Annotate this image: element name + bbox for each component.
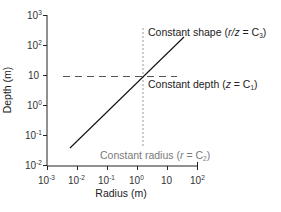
y-tick-label: 103 <box>27 9 42 21</box>
constant-shape-label: Constant shape (r/z = C3) <box>148 26 266 39</box>
x-tick-label: 10-3 <box>38 174 55 186</box>
x-tick-label: 10-2 <box>68 174 85 186</box>
constant-radius-label: Constant radius (r = C2) <box>100 149 210 162</box>
y-tick-label: 10 <box>28 70 40 81</box>
chart: 103 102 10 100 10-1 10-2 10-3 10-2 10-1 … <box>0 0 281 212</box>
y-axis-title: Depth (m) <box>1 67 13 114</box>
y-tick-labels: 103 102 10 100 10-1 10-2 <box>25 9 42 171</box>
y-tick-label: 100 <box>27 99 42 111</box>
x-tick-label: 102 <box>190 174 205 186</box>
y-tick-label: 10-2 <box>25 159 42 171</box>
x-tick-label: 10 <box>161 175 173 186</box>
y-tick-label: 10-1 <box>25 129 42 141</box>
y-tick-label: 102 <box>27 39 42 51</box>
constant-depth-label: Constant depth (z = C1) <box>148 78 258 91</box>
x-axis-title: Radius (m) <box>95 187 146 199</box>
chart-svg: 103 102 10 100 10-1 10-2 10-3 10-2 10-1 … <box>0 0 281 212</box>
x-tick-label: 10-1 <box>98 174 115 186</box>
x-tick-labels: 10-3 10-2 10-1 100 10 102 <box>38 174 205 186</box>
y-ticks <box>43 16 47 166</box>
constant-shape-line <box>70 37 184 148</box>
x-tick-label: 100 <box>129 174 144 186</box>
